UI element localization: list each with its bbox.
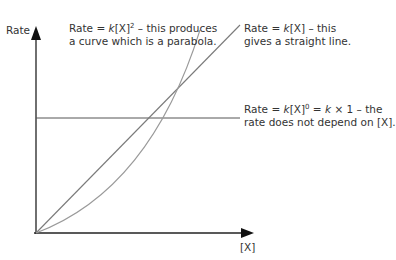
y-axis-arrow-icon — [31, 26, 41, 40]
x-axis-label: [X] — [240, 241, 255, 253]
second-order-curve — [36, 30, 200, 233]
first-order-annotation: Rate = k[X] – this gives a straight line… — [244, 22, 351, 48]
x-axis-arrow-icon — [241, 228, 254, 238]
zero-order-annotation: Rate = k[X]0 = k × 1 – the rate does not… — [244, 103, 396, 129]
first-order-line — [36, 25, 240, 233]
second-order-annotation: Rate = k[X]2 – this produces a curve whi… — [69, 22, 217, 48]
y-axis-label: Rate — [6, 24, 30, 36]
